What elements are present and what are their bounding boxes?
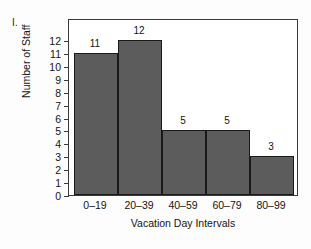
bar-value-label: 12 — [117, 26, 161, 36]
histogram-bar — [162, 130, 206, 195]
x-axis-title: Vacation Day Intervals — [68, 218, 298, 229]
bar-value-label: 3 — [249, 142, 293, 152]
y-tick-label: 12 — [49, 36, 61, 47]
histogram-bar — [250, 156, 294, 195]
y-tick-label: 9 — [55, 75, 61, 86]
y-tick-label: 6 — [55, 114, 61, 125]
bar-value-label: 5 — [205, 116, 249, 126]
histogram-bar — [118, 40, 162, 195]
y-tick-label: 1 — [55, 178, 61, 189]
x-tick-label: 40–59 — [161, 200, 205, 211]
y-tick-label: 5 — [55, 126, 61, 137]
item-number-label: I. — [12, 18, 18, 28]
y-tick-label: 4 — [55, 139, 61, 150]
bar-value-label: 5 — [161, 116, 205, 126]
y-tick-label: 11 — [50, 49, 61, 60]
bar-value-label: 11 — [73, 39, 117, 49]
y-tick-label: 2 — [55, 165, 61, 176]
histogram-bar — [74, 53, 118, 195]
y-tick-label: 3 — [55, 152, 61, 163]
y-axis-title: Number of Staff — [21, 0, 32, 123]
y-tick-mark: 0 — [64, 196, 69, 197]
y-tick-label: 7 — [55, 101, 61, 112]
x-tick-label: 80–99 — [249, 200, 293, 211]
y-tick-label: 0 — [55, 191, 61, 202]
y-tick-label: 10 — [49, 62, 61, 73]
histogram-bar — [206, 130, 250, 195]
x-tick-label: 20–39 — [117, 200, 161, 211]
y-tick-label: 8 — [55, 88, 61, 99]
x-tick-label: 0–19 — [73, 200, 117, 211]
x-tick-label: 60–79 — [205, 200, 249, 211]
histogram-figure: I. Number of Staff 0123456789101112 1112… — [0, 0, 311, 249]
